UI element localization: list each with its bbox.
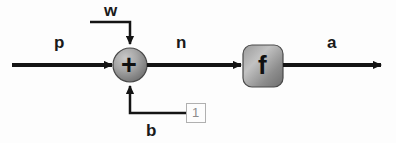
label-net-input-n: n bbox=[176, 34, 186, 51]
bias-source-label: 1 bbox=[192, 106, 199, 119]
weight-arrow-w bbox=[90, 22, 130, 44]
neuron-block-diagram: + f 1 p w n a b bbox=[0, 0, 396, 143]
label-output-a: a bbox=[327, 34, 336, 51]
label-bias-b: b bbox=[146, 122, 156, 139]
summer-plus-symbol: + bbox=[121, 52, 137, 79]
transfer-function-symbol: f bbox=[258, 52, 267, 78]
bias-arrow-b bbox=[130, 86, 186, 113]
label-input-p: p bbox=[54, 34, 64, 51]
label-weight-w: w bbox=[104, 2, 117, 19]
